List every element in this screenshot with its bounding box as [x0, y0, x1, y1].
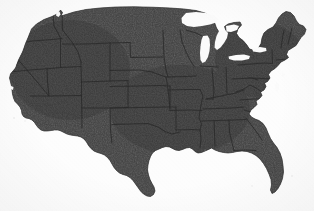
- border-ia-mo: [168, 90, 200, 91]
- border-ut-az: [31, 96, 82, 97]
- border-ny-ne: [272, 50, 273, 64]
- border-ga-fl: [234, 150, 256, 151]
- border-az-nm: [82, 96, 83, 129]
- us-map-figure: [0, 0, 314, 211]
- us-map-svg: [0, 0, 314, 211]
- border-ar-la: [176, 130, 200, 131]
- border-mo-ar: [170, 110, 202, 111]
